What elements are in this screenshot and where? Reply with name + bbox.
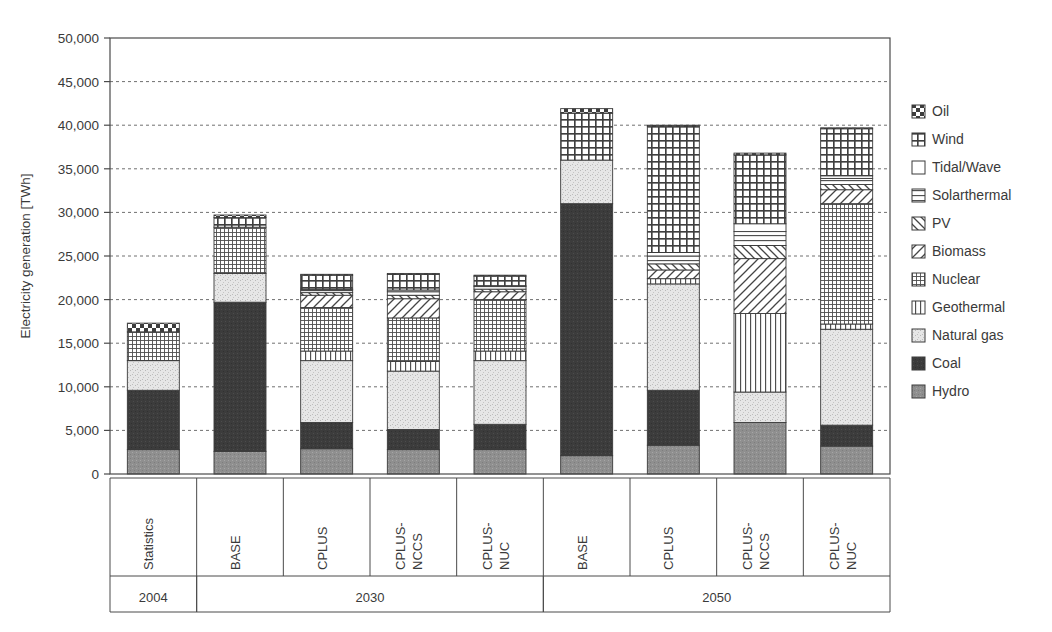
bar-segment <box>301 307 353 351</box>
bar-segment <box>647 126 699 252</box>
bar-segment <box>647 270 699 279</box>
bar-segment <box>301 351 353 361</box>
bar-segment <box>647 264 699 270</box>
x-category-label: CPLUS <box>315 526 330 570</box>
x-category-label: CPLUS <box>661 526 676 570</box>
bar-segment <box>734 224 786 232</box>
legend-label: Natural gas <box>932 327 1004 343</box>
y-tick-label: 25,000 <box>58 249 99 264</box>
bar-segment <box>647 125 699 126</box>
x-axis-category-labels: StatisticsBASECPLUSCPLUS-NCCSCPLUS-NUCBA… <box>110 478 890 576</box>
legend: OilWindTidal/WaveSolarthermalPVBiomassNu… <box>912 103 1011 399</box>
bar-segment <box>734 232 786 246</box>
bar-column <box>214 215 266 474</box>
bar-column <box>301 274 353 474</box>
bar-segment <box>214 215 266 218</box>
y-tick-label: 35,000 <box>58 162 99 177</box>
bar-segment <box>647 253 699 256</box>
bar-segment <box>821 446 873 474</box>
bar-segment <box>647 390 699 445</box>
legend-swatch <box>912 273 925 286</box>
legend-label: Nuclear <box>932 271 981 287</box>
x-category-label: BASE <box>575 535 590 570</box>
bar-segment <box>301 361 353 423</box>
bar-segment <box>821 178 873 184</box>
bar-segment <box>387 295 439 298</box>
legend-label: Wind <box>932 131 964 147</box>
bar-segment <box>821 129 873 176</box>
bar-segment <box>734 153 786 155</box>
bar-segment <box>387 299 439 318</box>
bar-segment <box>561 109 613 113</box>
legend-label: Coal <box>932 355 961 371</box>
bar-column <box>821 128 873 474</box>
bar-segment <box>821 425 873 446</box>
bar-segment <box>127 323 179 332</box>
bar-segment <box>214 218 266 228</box>
bar-segment <box>821 184 873 189</box>
bar-segment <box>301 275 353 289</box>
y-axis-title: Electricity generation [TWh] <box>18 173 33 338</box>
legend-swatch <box>912 133 925 146</box>
bar-column <box>561 109 613 474</box>
legend-label: Tidal/Wave <box>932 159 1001 175</box>
bar-segment <box>127 450 179 474</box>
bar-segment <box>214 227 266 273</box>
y-tick-label: 5,000 <box>65 423 99 438</box>
bar-column <box>647 125 699 474</box>
bar-column <box>127 323 179 474</box>
x-group-label: 2004 <box>139 590 168 605</box>
legend-label: Biomass <box>932 243 986 259</box>
bar-segment <box>474 450 526 474</box>
bar-segment <box>301 449 353 474</box>
bar-segment <box>821 128 873 129</box>
bar-segment <box>127 332 179 361</box>
x-category-label: NUC <box>844 542 859 570</box>
legend-swatch <box>912 105 925 118</box>
bar-segment <box>821 324 873 329</box>
legend-label: Oil <box>932 103 949 119</box>
bar-column <box>474 275 526 474</box>
bar-segment <box>734 259 786 314</box>
y-tick-label: 0 <box>91 467 99 482</box>
legend-swatch <box>912 357 925 370</box>
bar-series-group <box>127 109 872 474</box>
bar-segment <box>387 274 439 290</box>
bar-segment <box>127 390 179 449</box>
legend-swatch <box>912 161 925 174</box>
x-category-label: BASE <box>228 535 243 570</box>
y-tick-label: 30,000 <box>58 205 99 220</box>
x-category-label: CPLUS- <box>480 522 495 570</box>
bar-segment <box>474 361 526 425</box>
bar-column <box>734 153 786 474</box>
bar-segment <box>474 276 526 286</box>
legend-swatch <box>912 189 925 202</box>
bar-segment <box>301 423 353 449</box>
bar-segment <box>474 275 526 276</box>
bar-segment <box>647 256 699 264</box>
x-axis-year-labels: 200420302050 <box>110 576 890 612</box>
y-tick-label: 40,000 <box>58 118 99 133</box>
bar-segment <box>734 392 786 423</box>
bar-segment <box>387 273 439 274</box>
bar-segment <box>647 284 699 390</box>
x-category-label: CPLUS- <box>827 522 842 570</box>
bar-segment <box>821 329 873 425</box>
y-tick-label: 20,000 <box>58 293 99 308</box>
bar-segment <box>301 295 353 307</box>
x-category-label: NCCS <box>757 533 772 570</box>
bar-column <box>387 273 439 474</box>
legend-label: Geothermal <box>932 299 1005 315</box>
bar-segment <box>474 424 526 449</box>
y-tick-label: 45,000 <box>58 75 99 90</box>
x-category-label: CPLUS- <box>740 522 755 570</box>
x-category-label: NUC <box>497 542 512 570</box>
bar-segment <box>474 292 526 300</box>
stacked-bar-chart: 05,00010,00015,00020,00025,00030,00035,0… <box>0 0 1052 632</box>
bar-segment <box>474 300 526 351</box>
bar-segment <box>387 430 439 450</box>
legend-swatch <box>912 329 925 342</box>
legend-label: Hydro <box>932 383 970 399</box>
x-group-label: 2030 <box>356 590 385 605</box>
legend-swatch <box>912 385 925 398</box>
